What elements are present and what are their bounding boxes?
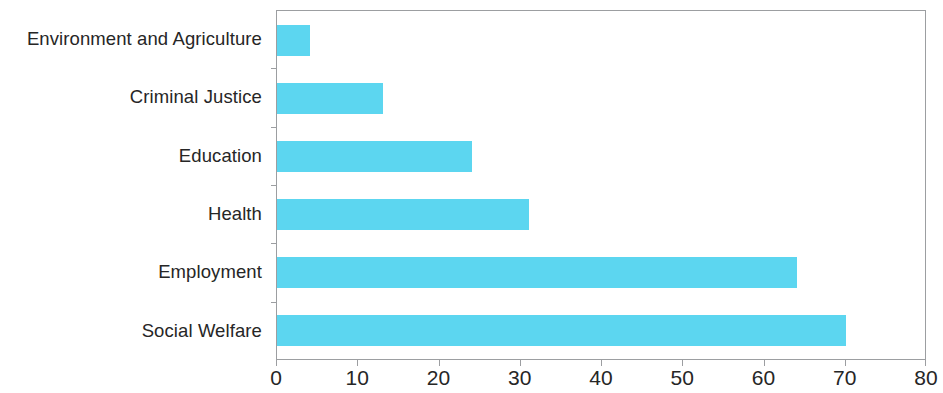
category-label: Social Welfare (0, 302, 270, 360)
bar (277, 83, 383, 114)
category-label: Health (0, 185, 270, 243)
x-axis-tick-label: 40 (589, 366, 612, 390)
x-axis-tick-label: 0 (270, 366, 282, 390)
bar (277, 141, 472, 172)
bar (277, 257, 797, 288)
x-axis-tick-label: 10 (346, 366, 369, 390)
category-label: Education (0, 127, 270, 185)
bar-series (277, 11, 925, 359)
plot-area (276, 10, 926, 360)
bar-row (277, 243, 925, 301)
bar-row (277, 185, 925, 243)
bar-row (277, 11, 925, 69)
bar (277, 315, 846, 346)
bar-row (277, 127, 925, 185)
category-label: Employment (0, 243, 270, 301)
x-axis-tick-label: 20 (427, 366, 450, 390)
bar-row (277, 301, 925, 359)
x-axis-tick-label: 80 (914, 366, 937, 390)
x-axis-tick-label: 50 (671, 366, 694, 390)
bar-row (277, 69, 925, 127)
x-axis-tick-label: 60 (752, 366, 775, 390)
bar (277, 25, 310, 56)
category-label: Criminal Justice (0, 68, 270, 126)
category-axis-labels: Environment and Agriculture Criminal Jus… (0, 10, 270, 360)
x-axis-tick-label: 70 (833, 366, 856, 390)
x-axis-tick-label: 30 (508, 366, 531, 390)
bar (277, 199, 529, 230)
bar-chart: Environment and Agriculture Criminal Jus… (0, 0, 943, 393)
x-axis-tick-labels: 01020304050607080 (276, 366, 926, 393)
category-label: Environment and Agriculture (0, 10, 270, 68)
